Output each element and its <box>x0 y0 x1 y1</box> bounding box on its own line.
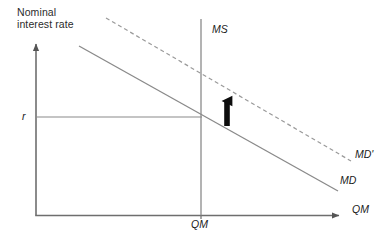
qm-tick-label: QM <box>191 218 208 230</box>
md-curve <box>79 46 338 191</box>
money-market-diagram: Nominal interest rate MS MD' MD QM QM r <box>0 0 392 239</box>
md-curve-label: MD <box>340 174 356 186</box>
ms-curve-label: MS <box>212 23 228 35</box>
md-prime-curve <box>106 18 351 161</box>
y-axis-title: Nominal interest rate <box>17 6 74 31</box>
y-axis-title-line1: Nominal <box>17 6 74 18</box>
x-axis-title: QM <box>352 203 369 215</box>
md-prime-curve-label: MD' <box>355 148 373 160</box>
y-axis-title-line2: interest rate <box>17 18 74 30</box>
diagram-canvas <box>0 0 392 239</box>
r-tick-label: r <box>22 110 26 122</box>
